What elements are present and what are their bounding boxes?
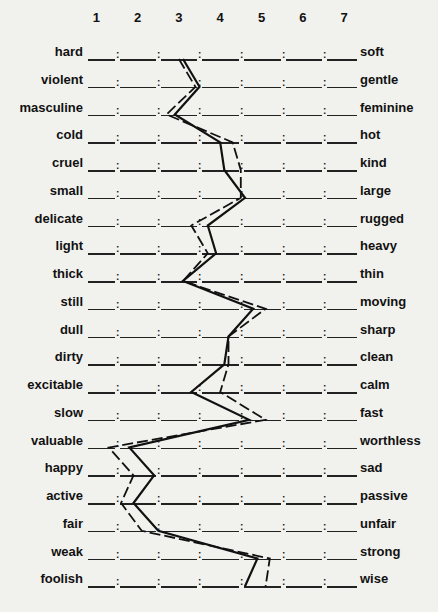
dashed-profile-line <box>109 59 270 586</box>
solid-profile-line <box>129 59 257 586</box>
semantic-differential-chart: 1234567hard::::::softviolent::::::gentle… <box>0 0 438 612</box>
profile-lines <box>0 0 438 612</box>
